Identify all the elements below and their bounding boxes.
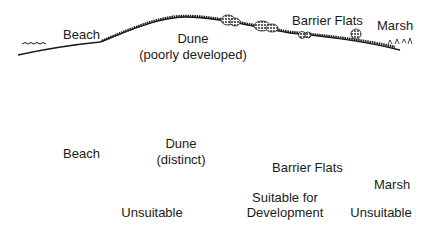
unsuitable-left-label: Unsuitable <box>121 205 182 220</box>
bottom-barrier-flats-label: Barrier Flats <box>272 160 343 175</box>
bottom-dune-label-line2: (distinct) <box>156 152 205 167</box>
bottom-marsh-label: Marsh <box>374 177 410 192</box>
suitable-label-line2: Development <box>247 205 324 220</box>
top-marsh-label: Marsh <box>377 18 413 33</box>
top-dune-label-line2: (poorly developed) <box>139 47 247 62</box>
top-barrier-flats-label: Barrier Flats <box>292 13 363 28</box>
top-dune-label-line1: Dune <box>177 31 208 46</box>
bottom-beach-label: Beach <box>63 146 100 161</box>
bottom-dune-label-line1: Dune <box>165 136 196 151</box>
top-beach-label: Beach <box>63 27 100 42</box>
water-waves-icon <box>22 43 46 45</box>
unsuitable-right-label: Unsuitable <box>350 205 411 220</box>
suitable-label-line1: Suitable for <box>252 190 318 205</box>
